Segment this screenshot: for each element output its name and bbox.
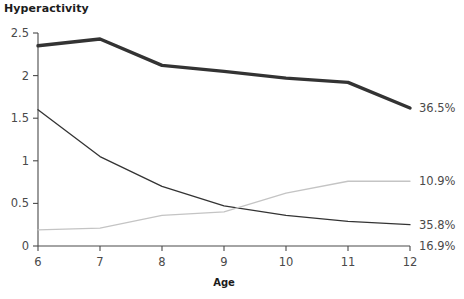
x-tick-label: 7 — [96, 255, 103, 269]
x-tick-label: 9 — [220, 255, 227, 269]
x-tick-label: 10 — [279, 255, 294, 269]
series-end-label: 35.8% — [419, 218, 456, 232]
series-group — [38, 39, 410, 230]
hyperactivity-chart: Hyperactivity 2.521.510.50 6789101112 36… — [0, 0, 464, 299]
x-tick-group: 6789101112 — [34, 246, 417, 269]
x-axis-title: Age — [0, 277, 448, 288]
y-tick-label: 2 — [22, 69, 29, 83]
y-tick-label: 0.5 — [11, 196, 29, 210]
y-tick-label: 2.5 — [11, 26, 29, 40]
series-line — [38, 39, 410, 108]
x-tick-label: 6 — [34, 255, 41, 269]
chart-plot-area: 2.521.510.50 6789101112 36.5%10.9%35.8%1… — [0, 0, 464, 299]
series-end-label: 36.5% — [419, 101, 456, 115]
x-tick-label: 12 — [403, 255, 418, 269]
x-axis: 6789101112 — [34, 246, 417, 269]
y-tick-label: 0 — [22, 239, 29, 253]
x-tick-label: 11 — [341, 255, 356, 269]
y-axis: 2.521.510.50 — [11, 26, 38, 253]
end-label-group: 36.5%10.9%35.8%16.9% — [419, 101, 456, 253]
x-tick-label: 8 — [158, 255, 165, 269]
series-line — [38, 110, 410, 225]
series-end-label: 16.9% — [419, 239, 456, 253]
y-tick-group: 2.521.510.50 — [11, 26, 38, 253]
y-tick-label: 1 — [22, 154, 29, 168]
series-end-label: 10.9% — [419, 174, 456, 188]
y-tick-label: 1.5 — [11, 111, 29, 125]
